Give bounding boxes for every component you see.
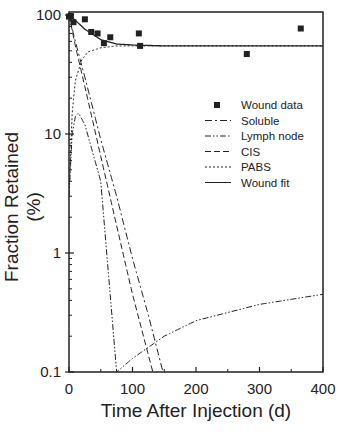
y-axis-label: Fraction Retained (%) xyxy=(1,122,45,292)
x-tick-label: 0 xyxy=(65,380,73,397)
legend-label: CIS xyxy=(241,146,261,158)
data-point-marker xyxy=(107,34,113,40)
x-axis-label: Time After Injection (d) xyxy=(69,400,323,422)
y-tick-label: 1 xyxy=(53,244,61,261)
series-pabs-line xyxy=(69,46,323,196)
data-point-marker xyxy=(298,26,304,32)
legend-marker xyxy=(214,102,220,108)
x-tick-label: 200 xyxy=(183,380,208,397)
data-point-marker xyxy=(244,51,250,57)
legend-label: Soluble xyxy=(241,115,279,127)
y-tick-label: 0.1 xyxy=(40,363,61,380)
series-lymph-node-line xyxy=(69,113,323,372)
x-tick-label: 100 xyxy=(120,380,145,397)
data-point-marker xyxy=(82,16,88,22)
series-cis-line xyxy=(69,15,153,372)
legend-label: Wound data xyxy=(241,99,303,111)
legend-label: Wound fit xyxy=(241,177,290,189)
legend-label: PABS xyxy=(241,161,271,173)
chart-canvas: 01002003004000.1110100Wound dataSolubleL… xyxy=(0,0,349,441)
series-wound-fit-line xyxy=(69,15,323,46)
y-tick-label: 100 xyxy=(36,6,61,23)
x-tick-label: 300 xyxy=(247,380,272,397)
series-soluble-line xyxy=(69,15,163,372)
data-point-marker xyxy=(136,30,142,36)
x-tick-label: 400 xyxy=(310,380,335,397)
y-tick-label: 10 xyxy=(44,125,61,142)
legend-label: Lymph node xyxy=(241,130,304,142)
plot-frame xyxy=(69,12,323,372)
